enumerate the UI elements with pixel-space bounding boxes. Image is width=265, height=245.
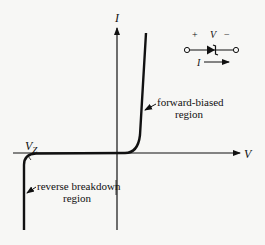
diode-triangle [207,46,215,55]
forward-pointer-arrow [145,104,156,110]
minus-sign: − [224,29,230,40]
symbol-current-label: I [196,57,201,68]
symbol-voltage-label: V [210,29,218,40]
cathode-terminal [233,47,238,52]
reverse-region-label-2: region [63,192,92,204]
reverse-region-label: reverse breakdown [37,180,121,192]
anode-terminal [184,47,189,52]
forward-region-label: forward-biased [157,96,224,108]
zener-voltage-label: VZ [25,139,38,155]
y-axis-label: I [114,11,120,25]
zener-tick [28,156,31,160]
forward-region-label-2: region [175,108,204,120]
x-axis-label: V [244,147,253,161]
zener-iv-diagram: I V VZ forward-biased region reverse bre… [0,0,265,245]
plus-sign: + [192,29,198,40]
zener-diode-symbol: + V − I [184,29,238,68]
reverse-pointer-arrow [27,187,36,193]
